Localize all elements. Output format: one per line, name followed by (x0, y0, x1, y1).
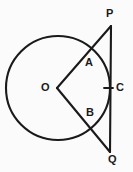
point-label-b: B (86, 107, 94, 118)
point-label-q: Q (108, 154, 117, 165)
segment-oq (57, 88, 110, 152)
geometry-figure: P A C O B Q (0, 0, 133, 172)
point-label-c: C (116, 82, 124, 93)
segment-op (57, 26, 111, 88)
point-label-p: P (106, 8, 113, 19)
point-label-o: O (41, 82, 50, 93)
geometry-canvas (0, 0, 133, 172)
segment-pq-tangent-line (110, 26, 111, 152)
point-label-a: A (85, 57, 93, 68)
